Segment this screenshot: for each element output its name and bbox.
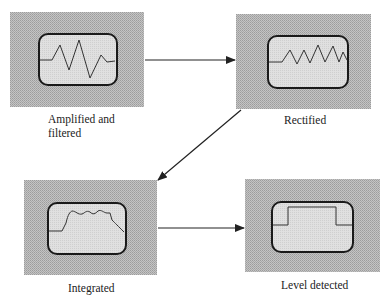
label-amplified-filtered: Amplified and filtered	[48, 112, 158, 140]
label-rectified: Rectified	[284, 113, 326, 127]
label-line: filtered	[48, 126, 158, 140]
label-level-detected: Level detected	[281, 278, 348, 292]
screen	[48, 203, 126, 254]
stage-level-detected	[245, 179, 380, 272]
flow-diagram	[0, 0, 391, 301]
screen	[272, 202, 353, 252]
stage-amplified-filtered	[10, 12, 144, 107]
label-integrated: Integrated	[68, 281, 115, 295]
stage-rectified	[236, 14, 371, 109]
label-line: Amplified and	[48, 112, 158, 126]
stage-integrated	[24, 180, 157, 275]
arrow-2-to-3	[158, 110, 241, 180]
